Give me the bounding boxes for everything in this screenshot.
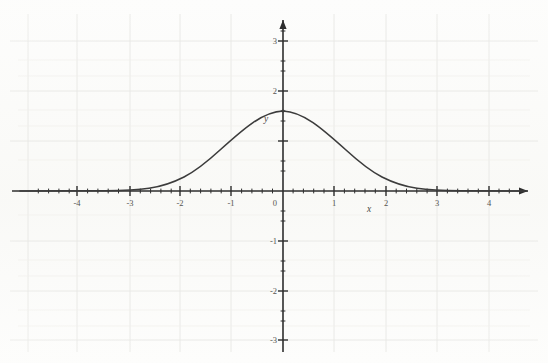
- origin-label: 0: [273, 198, 277, 208]
- x-axis-label: x: [366, 204, 372, 214]
- gaussian-plot: -4 -3 -2 -1 1 2 3 4 3 2 -1 -2 -3 0 y x: [0, 0, 548, 363]
- chart-page: -4 -3 -2 -1 1 2 3 4 3 2 -1 -2 -3 0 y x: [0, 0, 548, 363]
- x-tick-label: -4: [73, 198, 81, 208]
- x-tick-label: -2: [176, 198, 183, 208]
- x-tick-label: -1: [227, 198, 234, 208]
- curve-gaussian: [20, 111, 525, 191]
- x-tick-label: -3: [126, 198, 133, 208]
- y-tick-label: -3: [270, 335, 277, 345]
- peak-point: [281, 109, 284, 112]
- y-tick-label: -2: [270, 286, 277, 296]
- y-tick-label: 3: [273, 36, 277, 46]
- y-tick-label: 2: [273, 86, 277, 96]
- y-axis: [278, 20, 288, 352]
- x-tick-label: 2: [384, 198, 388, 208]
- y-axis-label: y: [263, 114, 269, 124]
- y-tick-label: -1: [270, 236, 277, 246]
- x-tick-label: 3: [435, 198, 439, 208]
- x-tick-label: 1: [332, 198, 336, 208]
- x-tick-label: 4: [487, 198, 492, 208]
- grid-lines: [10, 14, 538, 352]
